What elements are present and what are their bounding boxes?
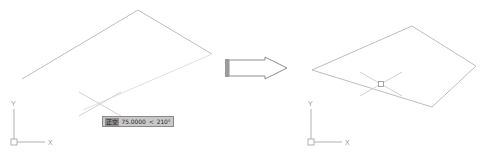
ucs-x-label: X [345,139,350,146]
closed-parallelogram [312,26,476,107]
ortho-mode-label: 正交 [105,118,119,126]
pickbox-icon [379,82,384,87]
dynamic-input-tooltip[interactable]: 正交 75.0000 < 210° [102,116,174,127]
angle-value[interactable]: 210° [157,118,171,126]
ucs-y-label: Y [308,100,313,107]
ucs-x-label: X [48,139,53,146]
ucs-icon: Y X [11,100,53,146]
open-polyline [22,10,212,79]
cad-screenshot: Y X 正交 75.0000 < 210° [0,0,486,158]
rotated-crosshair-cursor [79,92,121,116]
right-viewport[interactable]: Y X [243,0,486,158]
ucs-y-label: Y [11,100,16,107]
rubber-band-line [83,54,212,110]
ucs-icon: Y X [308,100,350,146]
right-drawing-canvas[interactable]: Y X [243,0,486,158]
angle-separator-icon: < [149,118,154,126]
left-viewport[interactable]: Y X 正交 75.0000 < 210° [0,0,243,158]
left-drawing-canvas[interactable]: Y X [0,0,243,158]
rotated-crosshair-cursor [360,72,402,96]
distance-value[interactable]: 75.0000 [122,118,146,126]
